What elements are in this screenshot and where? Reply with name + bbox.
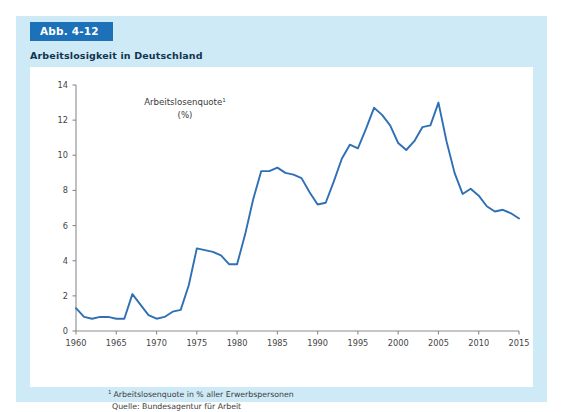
y-tick-label: 6: [63, 221, 68, 231]
x-axis-ticks: 1960196519701975198019851990199520002005…: [66, 331, 530, 348]
y-axis-ticks: 02468101214: [58, 80, 76, 336]
x-tick-label: 1965: [106, 338, 127, 348]
y-tick-label: 10: [58, 150, 68, 160]
chart-card: 02468101214 1960196519701975198019851990…: [30, 67, 533, 387]
x-tick-label: 1980: [227, 338, 248, 348]
x-tick-label: 2005: [428, 338, 449, 348]
series-line-arbeitslosenquote: [76, 103, 519, 319]
series-axis-title-line1: Arbeitslosenquote1: [144, 97, 226, 107]
x-tick-label: 2010: [468, 338, 489, 348]
unemployment-rate-line-chart: 02468101214 1960196519701975198019851990…: [30, 67, 533, 387]
y-tick-label: 12: [58, 115, 68, 125]
x-tick-label: 1985: [267, 338, 288, 348]
series-label-footnote-marker: 1: [222, 97, 226, 103]
x-tick-label: 1975: [186, 338, 207, 348]
y-tick-label: 14: [58, 80, 68, 90]
footnote-source-agency: Quelle: Bundesagentur für Arbeit: [112, 402, 241, 411]
x-tick-label: 2015: [509, 338, 530, 348]
footnote-text: Arbeitslosenquote in % aller Erwerbspers…: [113, 390, 293, 399]
footnote-marker: 1: [108, 389, 111, 395]
figure-number-badge: Abb. 4-12: [30, 22, 113, 41]
footnote-source-definition: 1Arbeitslosenquote in % aller Erwerbsper…: [108, 389, 294, 399]
x-tick-label: 1995: [347, 338, 368, 348]
x-tick-label: 2000: [388, 338, 409, 348]
series-axis-title-line2: (%): [178, 110, 193, 120]
x-tick-label: 1960: [66, 338, 87, 348]
figure-panel: Abb. 4-12 Arbeitslosigkeit in Deutschlan…: [16, 16, 547, 402]
y-tick-label: 8: [63, 185, 68, 195]
y-tick-label: 2: [63, 291, 68, 301]
footnote-svg: 1Arbeitslosenquote in % aller Erwerbsper…: [30, 388, 533, 412]
figure-title: Arbeitslosigkeit in Deutschland: [30, 50, 203, 61]
y-tick-label: 0: [63, 326, 68, 336]
x-tick-label: 1990: [307, 338, 328, 348]
x-tick-label: 1970: [146, 338, 167, 348]
y-tick-label: 4: [63, 256, 68, 266]
